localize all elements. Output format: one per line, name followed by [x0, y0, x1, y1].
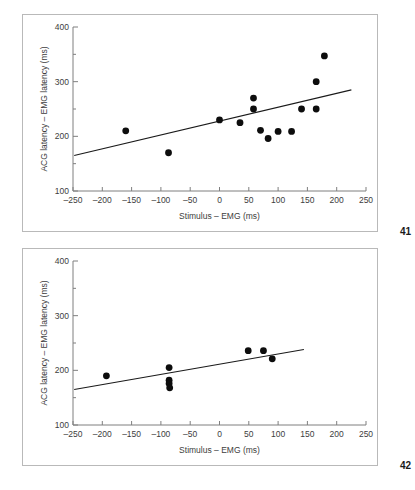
y-axis-title: ACG latency – EMG latency (ms)	[39, 280, 49, 405]
data-point	[165, 149, 172, 156]
x-axis-tick-label: 200	[330, 195, 344, 205]
x-axis-tick-label: –150	[122, 429, 141, 439]
x-axis-tick-label: –150	[122, 195, 141, 205]
regression-line	[74, 90, 351, 156]
data-point	[250, 106, 257, 113]
data-point	[103, 372, 110, 379]
data-point	[260, 347, 267, 354]
x-axis-tick-label: –50	[183, 195, 197, 205]
x-axis-tick-label: 150	[300, 195, 314, 205]
x-axis-tick-label: –250	[64, 429, 83, 439]
y-axis-tick-label: 100	[55, 420, 69, 430]
x-axis-tick-label: 0	[217, 429, 222, 439]
x-axis-tick-label: 50	[244, 429, 254, 439]
x-axis-tick-label: –200	[93, 195, 112, 205]
y-axis-tick-label: 100	[55, 186, 69, 196]
scatter-plot-bottom: –250–200–150–100–50050100150200250100200…	[23, 249, 377, 465]
x-axis-tick-label: –200	[93, 429, 112, 439]
scatter-panel-top: –250–200–150–100–50050100150200250100200…	[22, 14, 378, 232]
scatter-plot-top: –250–200–150–100–50050100150200250100200…	[23, 15, 377, 231]
x-axis-tick-label: 250	[359, 429, 373, 439]
data-point	[166, 384, 173, 391]
data-point	[313, 78, 320, 85]
x-axis-tick-label: 100	[271, 429, 285, 439]
data-point	[269, 355, 276, 362]
data-point	[313, 106, 320, 113]
y-axis-tick-label: 300	[55, 77, 69, 87]
panel-number-42: 42	[400, 460, 411, 471]
x-axis-tick-label: 150	[300, 429, 314, 439]
x-axis-tick-label: –50	[183, 429, 197, 439]
figure-root: –250–200–150–100–50050100150200250100200…	[0, 0, 415, 490]
x-axis-tick-label: –100	[151, 429, 170, 439]
data-point	[166, 364, 173, 371]
data-point	[216, 117, 223, 124]
y-axis-title: ACG latency – EMG latency (ms)	[39, 46, 49, 171]
scatter-panel-bottom: –250–200–150–100–50050100150200250100200…	[22, 248, 378, 466]
x-axis-title: Stimulus – EMG (ms)	[179, 445, 260, 455]
x-axis-tick-label: 0	[217, 195, 222, 205]
y-axis-tick-label: 200	[55, 131, 69, 141]
x-axis-tick-label: 50	[244, 195, 254, 205]
y-axis-tick-label: 200	[55, 365, 69, 375]
data-point	[288, 128, 295, 135]
data-point	[250, 95, 257, 102]
data-point	[275, 128, 282, 135]
y-axis-tick-label: 400	[55, 22, 69, 32]
y-axis-tick-label: 400	[55, 256, 69, 266]
x-axis-tick-label: –250	[64, 195, 83, 205]
y-axis-tick-label: 300	[55, 311, 69, 321]
panel-number-41: 41	[400, 226, 411, 237]
data-point	[122, 127, 129, 134]
data-point	[237, 119, 244, 126]
x-axis-tick-label: 250	[359, 195, 373, 205]
x-axis-title: Stimulus – EMG (ms)	[179, 211, 260, 221]
data-point	[245, 347, 252, 354]
regression-line	[74, 350, 304, 390]
x-axis-tick-label: 100	[271, 195, 285, 205]
data-point	[321, 53, 328, 60]
x-axis-tick-label: –100	[151, 195, 170, 205]
data-point	[298, 106, 305, 113]
x-axis-tick-label: 200	[330, 429, 344, 439]
data-point	[265, 135, 272, 142]
data-point	[257, 127, 264, 134]
